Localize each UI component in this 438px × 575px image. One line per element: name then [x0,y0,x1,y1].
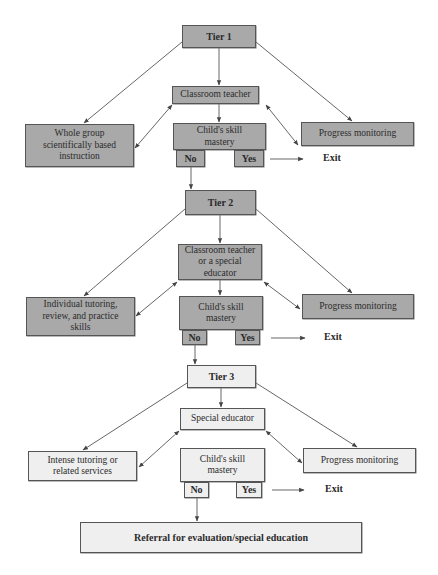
tier-2-box: Tier 2 [185,190,256,215]
tier-1-yes-label: Yes [242,153,256,165]
tier-3-no-box: No [184,482,209,498]
tier-1-box: Tier 1 [182,25,256,48]
tier-1-decision-box: Child's skill mastery [173,123,266,150]
referral-box: Referral for evaluation/special educatio… [80,522,362,553]
tier-1-provider: Classroom teacher [180,89,250,101]
tier-1-exit-label: Exit [323,152,341,163]
tier-3-box: Tier 3 [187,365,256,388]
tier-2-decision: Child's skill mastery [192,302,250,325]
tier-2-provider: Classroom teacher or a special educator [181,245,259,280]
tier-2-title: Tier 2 [208,197,233,209]
tier-1-yes-box: Yes [234,150,264,167]
tier-1-no-box: No [176,150,205,167]
tier-3-monitoring-box: Progress monitoring [303,448,416,473]
tier-3-exit-label: Exit [325,483,343,494]
tier-1-title: Tier 1 [206,31,231,43]
tier-2-decision-box: Child's skill mastery [179,296,263,330]
tier-2-provider-box: Classroom teacher or a special educator [178,244,262,280]
tier-2-no-box: No [182,330,207,345]
tier-2-exit-label: Exit [324,331,342,342]
tier-1-intervention-box: Whole group scientifically based instruc… [25,124,134,167]
tier-2-intervention-box: Individual tutoring, review, and practic… [26,297,135,336]
tier-1-monitoring-box: Progress monitoring [301,122,414,146]
tier-3-decision: Child's skill mastery [193,454,252,477]
tier-3-title: Tier 3 [209,371,234,383]
tier-1-monitoring: Progress monitoring [319,128,396,140]
tier-2-monitoring-box: Progress monitoring [302,294,414,319]
tier-3-decision-box: Child's skill mastery [180,448,265,482]
tier-2-no-label: No [188,332,200,344]
tier-2-monitoring: Progress monitoring [319,301,396,313]
tier-3-no-label: No [190,484,202,496]
tier-3-provider-box: Special educator [180,408,265,430]
tier-2-yes-box: Yes [235,330,260,345]
tier-3-monitoring: Progress monitoring [321,455,398,467]
tier-2-intervention: Individual tutoring, review, and practic… [33,299,128,334]
tier-3-intervention: Intense tutoring or related services [37,455,128,478]
tier-3-yes-label: Yes [242,484,256,496]
tier-3-provider: Special educator [191,413,254,425]
referral-label: Referral for evaluation/special educatio… [134,532,308,544]
tier-3-intervention-box: Intense tutoring or related services [28,451,137,481]
tier-2-yes-label: Yes [240,332,254,344]
tier-1-provider-box: Classroom teacher [172,86,259,104]
tier-1-decision: Child's skill mastery [188,125,251,148]
tier-3-yes-box: Yes [236,482,262,498]
tier-1-no-label: No [184,153,196,165]
tier-1-intervention: Whole group scientifically based instruc… [34,128,125,163]
